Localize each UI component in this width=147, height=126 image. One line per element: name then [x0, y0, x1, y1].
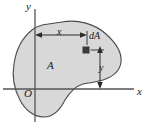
area-element-square — [82, 46, 90, 54]
dimension-x-label: x — [57, 27, 61, 37]
x-axis-label: x — [137, 86, 142, 97]
y-axis-label: y — [26, 1, 31, 12]
figure-canvas — [0, 0, 147, 126]
area-element-label: dA — [89, 31, 100, 41]
dimension-y-label: y — [99, 63, 103, 73]
region-area-label: A — [47, 60, 54, 71]
region-a-shape — [13, 21, 121, 117]
origin-label: O — [24, 88, 32, 99]
area-element-figure: y x O A x y dA — [0, 0, 147, 126]
dimension-y-arrow-bottom — [97, 82, 103, 89]
